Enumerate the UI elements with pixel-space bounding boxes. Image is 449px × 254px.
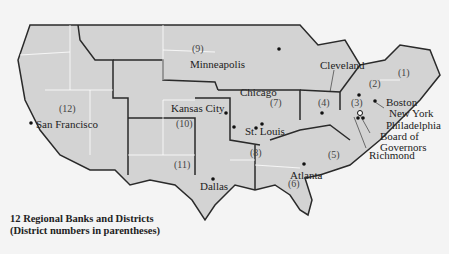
city-label-new-york: New York bbox=[389, 108, 434, 119]
district-num-7: (7) bbox=[270, 98, 282, 108]
city-label-minneapolis: Minneapolis bbox=[190, 59, 245, 70]
map-legend: 12 Regional Banks and Districts (Distric… bbox=[10, 213, 160, 237]
district-num-3: (3) bbox=[351, 98, 363, 108]
district-num-5: (5) bbox=[328, 150, 340, 160]
district-num-12: (12) bbox=[59, 104, 76, 114]
district-num-4: (4) bbox=[318, 98, 330, 108]
district-num-11: (11) bbox=[174, 160, 190, 170]
city-label-st-louis: St. Louis bbox=[245, 126, 285, 137]
city-label-san-francisco: San Francisco bbox=[36, 119, 98, 130]
city-label-dallas: Dallas bbox=[200, 181, 228, 192]
city-label-cleveland: Cleveland bbox=[320, 60, 365, 71]
legend-title: 12 Regional Banks and Districts bbox=[10, 213, 160, 225]
label-governors: Governors bbox=[380, 142, 426, 153]
legend-subtitle: (District numbers in parentheses) bbox=[10, 225, 160, 237]
district-num-1: (1) bbox=[398, 68, 410, 78]
district-num-9: (9) bbox=[192, 44, 204, 54]
district-num-2: (2) bbox=[369, 79, 381, 89]
district-num-6: (6) bbox=[288, 179, 300, 189]
district-num-8: (8) bbox=[250, 148, 262, 158]
city-label-kansas-city: Kansas City bbox=[171, 103, 224, 114]
district-num-10: (10) bbox=[176, 119, 193, 129]
